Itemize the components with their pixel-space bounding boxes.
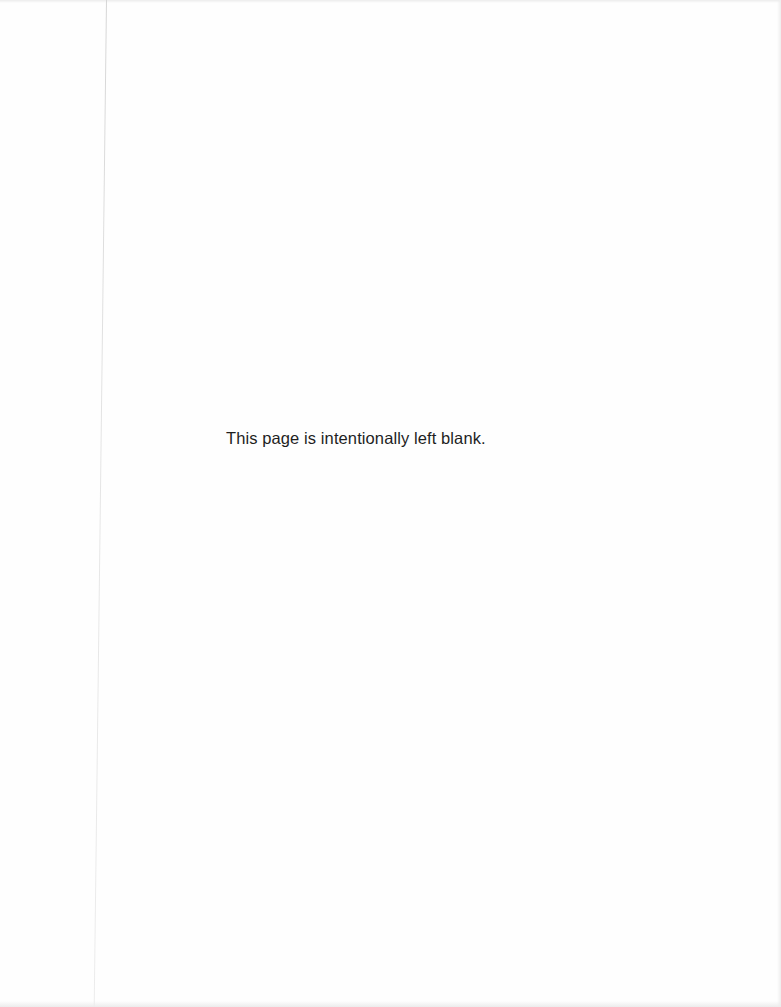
scanned-page: This page is intentionally left blank. <box>0 0 781 1007</box>
page-bottom-edge-shadow <box>0 1001 781 1007</box>
binding-margin-line <box>94 0 107 1007</box>
blank-page-notice: This page is intentionally left blank. <box>226 429 486 448</box>
page-right-edge-shadow <box>777 0 781 1007</box>
page-top-edge-shadow <box>0 0 781 3</box>
